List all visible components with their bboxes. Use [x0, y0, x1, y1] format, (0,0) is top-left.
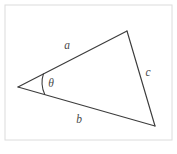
side-label-a: a — [64, 39, 70, 51]
side-label-b: b — [76, 113, 82, 125]
angle-label-theta: θ — [48, 77, 54, 89]
side-label-c: c — [145, 66, 150, 78]
geometry-figure: a c b θ — [0, 0, 177, 154]
triangle-diagram-canvas: a c b θ — [0, 0, 177, 154]
